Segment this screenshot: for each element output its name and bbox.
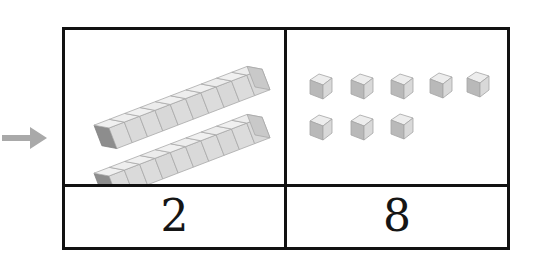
- unit-cube-graphic: [427, 71, 457, 101]
- unit-cube-graphic: [464, 70, 494, 100]
- unit-cube-graphic: [307, 113, 337, 143]
- ones-blocks-cell: [287, 30, 507, 184]
- unit-cube: [388, 112, 418, 142]
- unit-cube-graphic: [388, 112, 418, 142]
- table-row-digits: 2 8: [65, 187, 507, 247]
- tens-blocks-area: [65, 30, 284, 184]
- table-row-blocks: [65, 30, 507, 187]
- arrow-right-icon: [2, 122, 50, 154]
- arrow-right-container: [2, 122, 50, 154]
- unit-cube: [427, 71, 457, 101]
- unit-cube: [307, 72, 337, 102]
- unit-cube-graphic: [388, 72, 418, 102]
- ones-blocks-area: [287, 30, 507, 184]
- ones-digit: 8: [383, 194, 411, 241]
- unit-cube-graphic: [307, 72, 337, 102]
- unit-cube-graphic: [348, 72, 378, 102]
- unit-cube: [348, 72, 378, 102]
- unit-cube: [388, 72, 418, 102]
- unit-cube-graphic: [348, 113, 378, 143]
- tens-digit-cell: 2: [65, 187, 287, 247]
- unit-cube: [348, 113, 378, 143]
- place-value-table: 2 8: [62, 27, 510, 250]
- tens-digit: 2: [161, 194, 189, 241]
- ones-digit-cell: 8: [287, 187, 507, 247]
- ten-rod: [103, 110, 287, 184]
- unit-cube: [307, 113, 337, 143]
- ten-rod-graphic: [103, 110, 287, 184]
- tens-blocks-cell: [65, 30, 287, 184]
- unit-cube: [464, 70, 494, 100]
